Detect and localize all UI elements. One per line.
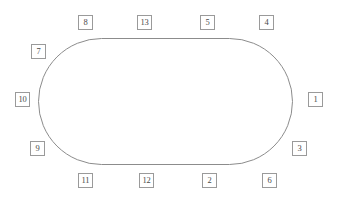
node-box-1[interactable]: 1: [308, 92, 323, 107]
node-box-11[interactable]: 11: [78, 173, 93, 188]
diagram-canvas: 81354710193111226: [0, 0, 338, 202]
node-box-10[interactable]: 10: [15, 92, 30, 107]
node-box-4[interactable]: 4: [259, 15, 274, 30]
node-box-3[interactable]: 3: [292, 141, 307, 156]
oval-outline: [38, 38, 293, 165]
node-box-8[interactable]: 8: [78, 15, 93, 30]
node-box-12[interactable]: 12: [139, 173, 154, 188]
node-box-9[interactable]: 9: [30, 141, 45, 156]
node-box-2[interactable]: 2: [202, 173, 217, 188]
node-box-13[interactable]: 13: [137, 15, 152, 30]
node-box-5[interactable]: 5: [200, 15, 215, 30]
node-box-7[interactable]: 7: [31, 44, 46, 59]
node-box-6[interactable]: 6: [262, 173, 277, 188]
